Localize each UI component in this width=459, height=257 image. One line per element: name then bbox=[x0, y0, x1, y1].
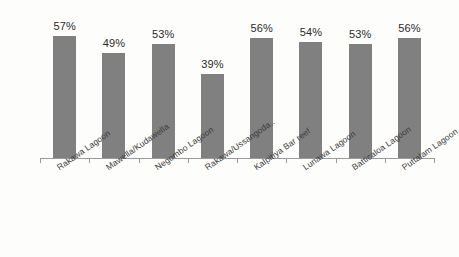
x-axis-tick bbox=[139, 158, 140, 163]
bar-value-label: 57% bbox=[53, 21, 75, 32]
x-axis-category-labels: Rakawa Lagoon Mawella/Kudawella Negombo … bbox=[40, 160, 434, 255]
x-axis-tick bbox=[89, 158, 90, 163]
x-axis-tick bbox=[237, 158, 238, 163]
bar-slot: 57% bbox=[40, 8, 89, 158]
bar-rect[interactable] bbox=[349, 44, 372, 158]
x-axis-tick bbox=[286, 158, 287, 163]
bar-rect[interactable] bbox=[53, 36, 76, 158]
bar-value-label: 49% bbox=[103, 38, 125, 49]
bar-rect[interactable] bbox=[299, 42, 322, 158]
bar-rect[interactable] bbox=[102, 53, 125, 158]
bar-value-label: 56% bbox=[398, 23, 420, 34]
bar-rect[interactable] bbox=[201, 74, 224, 158]
bar-rect[interactable] bbox=[152, 44, 175, 158]
bar-value-label: 53% bbox=[349, 29, 371, 40]
x-axis-tick bbox=[336, 158, 337, 163]
bar-column: 57% bbox=[40, 8, 89, 158]
x-axis-tick bbox=[434, 158, 435, 163]
bar-value-label: 53% bbox=[152, 29, 174, 40]
x-axis-tick bbox=[385, 158, 386, 163]
bar-value-label: 54% bbox=[300, 27, 322, 38]
x-axis-tick bbox=[40, 158, 41, 163]
bar-value-label: 39% bbox=[201, 59, 223, 70]
bar-value-label: 56% bbox=[250, 23, 272, 34]
x-axis-tick bbox=[188, 158, 189, 163]
